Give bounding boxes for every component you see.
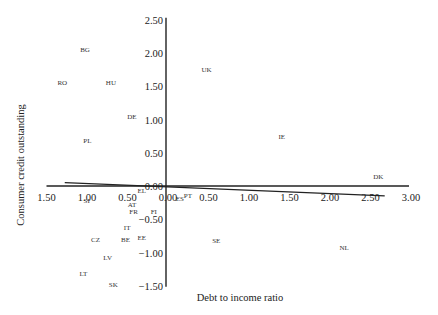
point-label-dk: DK (373, 173, 383, 181)
point-label-es: ES (176, 195, 184, 203)
y-axis-label: Consumer credit outstanding (15, 104, 26, 226)
point-label-be: BE (121, 236, 130, 244)
point-label-it: IT (124, 224, 131, 232)
point-label-hu: HU (106, 79, 116, 87)
point-label-bg: BG (80, 46, 90, 54)
point-label-uk: UK (201, 66, 211, 74)
x-axis-label: Debt to income ratio (197, 292, 284, 303)
x-tick-label: 1.00 (240, 192, 258, 203)
x-tick-label: 1.50 (280, 192, 298, 203)
point-label-lt: LT (79, 270, 88, 278)
x-tick-label: 3.00 (402, 192, 420, 203)
point-label-lv: LV (103, 254, 112, 262)
x-tick-label: 1.50 (37, 192, 55, 203)
point-label-fi: FI (151, 208, 158, 216)
point-label-se: SE (212, 237, 220, 245)
tick-labels: 1.501.000.500.000.501.001.502.002.503.00… (37, 15, 420, 292)
y-tick-label: 2.00 (145, 48, 163, 59)
point-label-pt: PT (184, 192, 193, 200)
point-label-el: EL (137, 187, 146, 195)
point-label-ee: EE (137, 234, 146, 242)
point-label-sk: SK (109, 281, 118, 289)
axes (47, 18, 410, 287)
point-label-cz: CZ (91, 236, 100, 244)
point-label-nl: NL (340, 244, 349, 252)
y-tick-label: 1.50 (145, 81, 163, 92)
y-tick-label: 2.50 (145, 15, 163, 26)
point-label-ie: IE (279, 133, 286, 141)
x-tick-label: 2.50 (361, 192, 379, 203)
y-tick-label: 0.50 (145, 148, 163, 159)
point-label-pl: PL (83, 137, 91, 145)
scatter-chart: 1.501.000.500.000.501.001.502.002.503.00… (0, 0, 438, 315)
y-tick-label: −1.00 (139, 248, 163, 259)
y-tick-label: 1.00 (145, 115, 163, 126)
data-point-labels: BGROHUUKDEPLIEDKELSIESPTATFRFIITBEEECZSE… (57, 46, 383, 289)
point-label-de: DE (127, 113, 136, 121)
x-tick-label: 2.00 (321, 192, 339, 203)
x-tick-label: 0.00 (159, 192, 177, 203)
y-tick-label: −1.50 (139, 281, 163, 292)
x-tick-label: 0.50 (199, 192, 217, 203)
point-label-fr: FR (129, 208, 138, 216)
y-tick-label: 0.00 (145, 181, 163, 192)
point-label-ro: RO (57, 79, 67, 87)
point-label-si: SI (84, 197, 91, 205)
y-tick-label: −0.50 (139, 214, 163, 225)
